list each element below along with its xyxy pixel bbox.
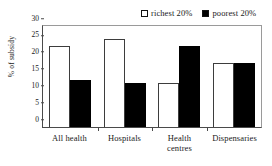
bar-group-health-centres bbox=[152, 26, 207, 127]
bar-group-all-health bbox=[43, 26, 98, 127]
legend-entry-richest: richest 20% bbox=[141, 9, 192, 18]
bar-richest-all-health bbox=[49, 46, 70, 127]
bar-poorest-health-centres bbox=[179, 46, 200, 127]
legend-swatch-filled-square-icon bbox=[202, 10, 209, 17]
bar-poorest-hospitals bbox=[125, 83, 146, 127]
x-label-line: Hospitals bbox=[97, 133, 152, 143]
x-label-all-health: All health bbox=[42, 133, 97, 153]
bar-poorest-all-health bbox=[70, 80, 91, 127]
chart-legend: richest 20% poorest 20% bbox=[141, 9, 256, 18]
y-tick-5: 5 bbox=[35, 99, 43, 107]
bar-groups bbox=[43, 26, 261, 127]
plot-area: 30 25 20 15 10 5 0 bbox=[42, 25, 262, 128]
y-tick-20: 20 bbox=[32, 48, 44, 56]
x-label-line: All health bbox=[42, 133, 97, 143]
y-tick-mark bbox=[41, 18, 44, 19]
x-label-line: centres bbox=[152, 143, 207, 153]
bar-poorest-dispensaries bbox=[234, 63, 255, 127]
bar-group-dispensaries bbox=[207, 26, 262, 127]
bar-richest-hospitals bbox=[104, 39, 125, 127]
x-label-line: Health bbox=[152, 133, 207, 143]
bar-richest-health-centres bbox=[158, 83, 179, 127]
y-tick-10: 10 bbox=[32, 82, 44, 90]
y-tick-30: 30 bbox=[32, 15, 44, 23]
x-label-health-centres: Health centres bbox=[152, 133, 207, 153]
x-tick-boundary-2 bbox=[152, 127, 153, 131]
bar-group-hospitals bbox=[98, 26, 153, 127]
x-tick-boundary-1 bbox=[98, 127, 99, 131]
x-tick-boundary-3 bbox=[207, 127, 208, 131]
y-axis-label: % of subsidy bbox=[7, 21, 16, 93]
y-tick-15: 15 bbox=[32, 65, 44, 73]
x-axis-labels: All health Hospitals Health centres Disp… bbox=[42, 133, 262, 153]
y-tick-0: 0 bbox=[35, 116, 43, 124]
x-label-line: Dispensaries bbox=[207, 133, 262, 143]
legend-swatch-hollow-square-icon bbox=[141, 10, 148, 17]
y-tick-25: 25 bbox=[32, 32, 44, 40]
legend-label-poorest: poorest 20% bbox=[212, 9, 256, 18]
x-label-hospitals: Hospitals bbox=[97, 133, 152, 153]
legend-entry-poorest: poorest 20% bbox=[202, 9, 256, 18]
bar-chart: richest 20% poorest 20% % of subsidy 30 … bbox=[0, 0, 272, 166]
bar-richest-dispensaries bbox=[213, 63, 234, 127]
x-label-dispensaries: Dispensaries bbox=[207, 133, 262, 153]
legend-label-richest: richest 20% bbox=[151, 9, 192, 18]
